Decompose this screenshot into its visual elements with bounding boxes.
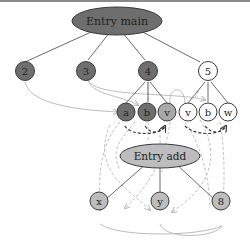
node-4: 4 <box>139 62 158 81</box>
node-y: y <box>151 192 169 210</box>
node-entry-add: Entry add <box>120 144 200 168</box>
node-x: x <box>90 192 108 210</box>
node-label: Entry add <box>134 150 187 162</box>
node-label: b <box>144 107 150 118</box>
node-v-left: v <box>158 103 176 121</box>
diagram-frame: Entry main 2 3 4 5 a b v <box>0 0 250 242</box>
node-label: 4 <box>145 66 151 77</box>
node-b-right: b <box>199 103 217 121</box>
node-label: v <box>184 107 191 118</box>
node-label: y <box>156 196 163 207</box>
dark-dashed-arrows <box>125 126 226 134</box>
node-label: Entry main <box>86 15 148 28</box>
node-5: 5 <box>199 62 218 81</box>
node-label: 5 <box>205 66 211 77</box>
node-w: w <box>219 103 237 121</box>
node-label: b <box>205 107 211 118</box>
node-8: 8 <box>212 192 230 210</box>
node-label: a <box>123 107 129 118</box>
node-3: 3 <box>77 62 96 81</box>
node-label: 2 <box>22 66 28 77</box>
node-label: 3 <box>83 66 89 77</box>
node-2: 2 <box>16 62 35 81</box>
graph-canvas: Entry main 2 3 4 5 a b v <box>0 0 250 242</box>
node-label: 8 <box>218 196 224 207</box>
node-label: v <box>163 107 170 118</box>
node-entry-main: Entry main <box>72 7 162 35</box>
node-label: w <box>224 107 233 118</box>
node-v-right: v <box>179 103 197 121</box>
node-b-left: b <box>138 103 156 121</box>
node-a: a <box>117 103 135 121</box>
node-label: x <box>96 196 102 207</box>
